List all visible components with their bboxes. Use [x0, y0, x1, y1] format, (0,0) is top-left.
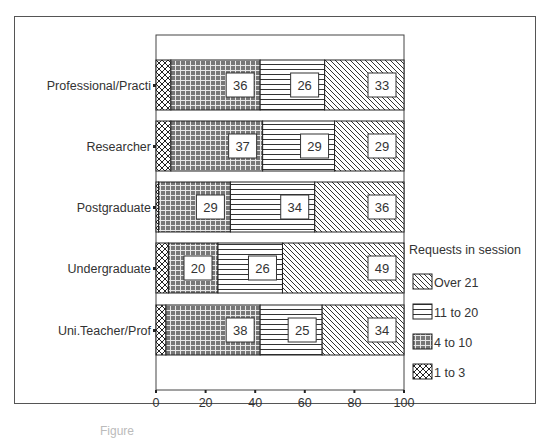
- bar-row: 202649: [156, 243, 404, 293]
- data-label: 29: [307, 139, 321, 154]
- legend-item-label: 1 to 3: [434, 366, 465, 380]
- y-tick: [153, 267, 156, 270]
- x-tick-label: 80: [347, 396, 361, 410]
- bar-segment: [156, 121, 171, 171]
- data-label: 26: [255, 261, 269, 276]
- data-label: 38: [233, 323, 247, 338]
- x-tick-label: 20: [199, 396, 213, 410]
- category-label: Undergraduate: [68, 262, 151, 276]
- bar-row: 372929: [156, 121, 404, 171]
- data-label: 26: [297, 78, 311, 93]
- x-tick-label: 0: [153, 396, 160, 410]
- legend-item-label: Over 21: [434, 276, 479, 290]
- legend-title: Requests in session: [409, 243, 521, 257]
- bar-row: 293436: [156, 182, 404, 232]
- data-label: 36: [375, 200, 389, 215]
- y-tick: [153, 145, 156, 148]
- bar-row: 382534: [156, 305, 404, 355]
- data-label: 34: [287, 200, 301, 215]
- category-label: Researcher: [86, 140, 151, 154]
- y-tick: [153, 84, 156, 87]
- bar-row: 362633: [156, 60, 404, 110]
- bar-segment: [156, 60, 171, 110]
- data-label: 33: [375, 78, 389, 93]
- x-tick-label: 100: [394, 396, 415, 410]
- legend-swatch: [413, 304, 432, 319]
- x-tick-label: 40: [248, 396, 262, 410]
- legend-item-label: 4 to 10: [434, 336, 472, 350]
- legend-swatch: [413, 334, 432, 349]
- data-label: 49: [375, 261, 389, 276]
- bar-segment: [156, 243, 168, 293]
- data-label: 25: [295, 323, 309, 338]
- data-label: 29: [375, 139, 389, 154]
- bar-segment: [156, 305, 166, 355]
- x-tick-label: 60: [298, 396, 312, 410]
- y-tick: [153, 329, 156, 332]
- data-label: 34: [375, 323, 389, 338]
- category-label: Professional/Practi: [47, 79, 151, 93]
- data-label: 37: [235, 139, 249, 154]
- figure-caption: Figure: [100, 424, 134, 438]
- legend-swatch: [413, 364, 432, 379]
- data-label: 36: [233, 78, 247, 93]
- data-label: 29: [203, 200, 217, 215]
- legend-item-label: 11 to 20: [434, 306, 478, 320]
- category-label: Uni.Teacher/Prof: [58, 324, 152, 338]
- legend: Requests in sessionOver 2111 to 204 to 1…: [409, 243, 521, 380]
- data-label: 20: [191, 261, 205, 276]
- legend-swatch: [413, 274, 432, 289]
- y-tick: [153, 206, 156, 209]
- category-label: Postgraduate: [77, 201, 151, 215]
